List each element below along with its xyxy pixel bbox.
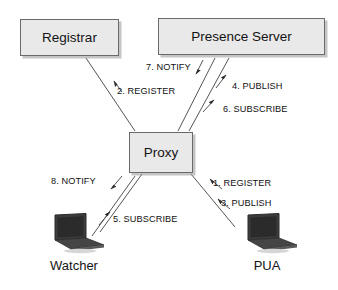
node-presence-server-label: Presence Server	[191, 29, 292, 44]
laptop-icon	[40, 212, 108, 254]
node-registrar-label: Registrar	[42, 30, 97, 45]
edge-label-7-notify: 7. NOTIFY	[146, 62, 191, 72]
node-registrar[interactable]: Registrar	[20, 19, 119, 56]
edge-label-1-register: 1. REGISTER	[213, 178, 271, 188]
laptop-icon	[233, 212, 301, 254]
edge-7-notify-arrow	[196, 60, 203, 74]
node-watcher[interactable]: Watcher	[22, 212, 126, 273]
edge-label-4-publish: 4. PUBLISH	[232, 81, 283, 91]
edge-4-publish-arrow	[216, 75, 226, 88]
edge-label-8-notify: 8. NOTIFY	[51, 176, 96, 186]
node-pua[interactable]: PUA	[215, 212, 319, 273]
node-pua-label: PUA	[254, 258, 281, 273]
node-proxy-label: Proxy	[144, 145, 179, 160]
edge-label-2-register: 2. REGISTER	[117, 86, 175, 96]
edge-label-6-subscribe: 6. SUBSCRIBE	[223, 104, 288, 114]
edge-label-3-publish: 3. PUBLISH	[221, 198, 272, 208]
edge-8-notify-arrow	[111, 176, 122, 189]
node-presence-server[interactable]: Presence Server	[158, 18, 325, 55]
node-watcher-label: Watcher	[50, 258, 98, 273]
node-proxy[interactable]: Proxy	[129, 132, 193, 173]
diagram-canvas: Registrar Presence Server Proxy 7. NOTIF…	[0, 0, 338, 290]
